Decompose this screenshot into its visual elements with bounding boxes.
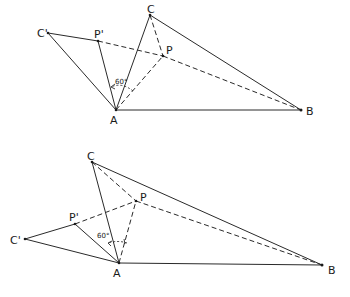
segment-CB — [92, 162, 322, 265]
point-A — [118, 262, 121, 265]
angle-label: 60° — [97, 232, 109, 240]
point-P — [162, 55, 165, 58]
segment-AC — [116, 15, 150, 110]
point-B — [321, 264, 324, 267]
label-B: B — [306, 105, 314, 118]
segment-CP — [92, 162, 136, 201]
segment-PB — [136, 201, 322, 265]
figure-top: A B C P C' P' 60° — [37, 3, 314, 127]
label-C-prime: C' — [10, 234, 21, 247]
segment-AP — [119, 201, 136, 263]
label-P-prime: P' — [94, 28, 104, 41]
angle-label: 60° — [115, 78, 127, 86]
segment-P-prime-P — [98, 41, 163, 56]
label-C-prime: C' — [37, 27, 48, 40]
point-C-prime — [24, 238, 27, 241]
label-A: A — [113, 267, 121, 280]
point-P — [135, 200, 138, 203]
label-B: B — [328, 264, 336, 277]
arrowhead-icon — [108, 241, 112, 246]
label-C: C — [147, 3, 155, 16]
label-P-prime: P' — [69, 211, 79, 224]
segment-C-prime-P-prime — [25, 224, 75, 239]
segment-CP — [150, 15, 163, 56]
label-A: A — [110, 114, 118, 127]
label-P: P — [166, 44, 173, 57]
segment-PB — [163, 56, 301, 110]
point-A — [115, 109, 118, 112]
point-B — [300, 109, 303, 112]
segment-P-prime-P — [75, 201, 136, 224]
label-P: P — [140, 191, 147, 204]
rotation-arc — [111, 85, 133, 91]
label-C: C — [87, 150, 95, 163]
segment-C-prime-P-prime — [48, 33, 98, 41]
diagram-canvas: A B C P C' P' 60° A B C P — [0, 0, 350, 297]
segment-AB — [119, 263, 322, 265]
figure-bottom: A B C P C' P' 60° — [10, 150, 336, 280]
segment-CB — [150, 15, 301, 110]
